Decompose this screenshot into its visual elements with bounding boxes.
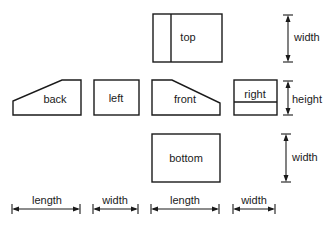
arrow-left-icon bbox=[151, 207, 158, 212]
arrow-down-icon bbox=[286, 108, 291, 115]
dimension-label: length bbox=[170, 194, 200, 206]
left-view: left bbox=[94, 80, 139, 115]
dimension-width-right: width bbox=[233, 194, 275, 214]
back-view-label: back bbox=[43, 93, 67, 105]
arrow-left-icon bbox=[233, 207, 240, 212]
dimension-label: length bbox=[32, 194, 62, 206]
arrow-up-icon bbox=[286, 81, 291, 88]
dimension-length-front: length bbox=[151, 194, 219, 214]
dimension-height: height bbox=[283, 81, 322, 115]
orthographic-diagram: top back left front right bottom width bbox=[0, 0, 333, 229]
dimension-label: height bbox=[292, 93, 322, 105]
dimension-width-left: width bbox=[93, 194, 138, 214]
arrow-right-icon bbox=[268, 207, 275, 212]
bottom-view-label: bottom bbox=[169, 152, 203, 164]
dimension-width-bottom: width bbox=[281, 134, 318, 182]
arrow-right-icon bbox=[212, 207, 219, 212]
arrow-down-icon bbox=[286, 55, 291, 62]
arrow-left-icon bbox=[93, 207, 100, 212]
arrow-right-icon bbox=[131, 207, 138, 212]
bottom-view: bottom bbox=[152, 134, 220, 182]
back-view: back bbox=[13, 80, 81, 115]
front-view: front bbox=[152, 80, 220, 115]
dimension-width-top: width bbox=[283, 15, 320, 62]
dimension-length-back: length bbox=[12, 194, 80, 214]
dimension-label: width bbox=[293, 31, 320, 43]
dimension-label: width bbox=[240, 194, 267, 206]
arrow-up-icon bbox=[284, 134, 289, 141]
arrow-right-icon bbox=[73, 207, 80, 212]
dimension-label: width bbox=[291, 151, 318, 163]
arrow-up-icon bbox=[286, 15, 291, 22]
top-view: top bbox=[153, 14, 222, 62]
front-view-label: front bbox=[174, 93, 196, 105]
left-view-label: left bbox=[109, 92, 124, 104]
arrow-down-icon bbox=[284, 175, 289, 182]
right-view: right bbox=[234, 80, 277, 115]
right-view-label: right bbox=[244, 88, 265, 100]
top-view-label: top bbox=[180, 31, 195, 43]
dimension-label: width bbox=[101, 194, 128, 206]
arrow-left-icon bbox=[12, 207, 19, 212]
